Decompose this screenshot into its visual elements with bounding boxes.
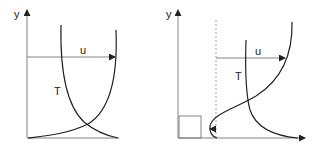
right-small-square bbox=[179, 116, 201, 138]
left-u-label: u bbox=[80, 45, 86, 56]
left-temperature-curve bbox=[61, 25, 118, 138]
left-t-label: T bbox=[54, 86, 61, 97]
right-t-label: T bbox=[235, 71, 242, 82]
left-y-label: y bbox=[14, 9, 20, 20]
diagram-canvas bbox=[0, 0, 322, 149]
right-y-label: y bbox=[166, 9, 172, 20]
left-panel bbox=[27, 10, 119, 138]
left-velocity-curve bbox=[28, 30, 116, 138]
right-u-label: u bbox=[255, 46, 261, 57]
right-temperature-curve bbox=[246, 40, 298, 138]
right-velocity-curve bbox=[210, 22, 292, 138]
